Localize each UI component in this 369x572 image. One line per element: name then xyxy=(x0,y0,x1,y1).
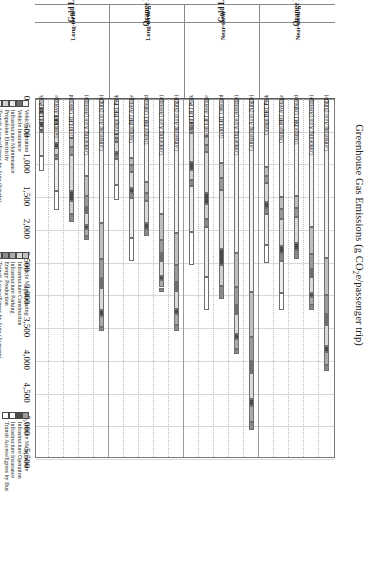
row-separator xyxy=(138,99,139,457)
bar-segment xyxy=(129,158,134,166)
legend-label: Infrastructure Operation xyxy=(16,422,22,479)
legend-swatch xyxy=(16,252,23,259)
category-label: Competing Auto (Average) xyxy=(160,95,166,156)
bar-segment xyxy=(189,133,194,162)
plot-area xyxy=(35,98,335,458)
bar-segment xyxy=(249,337,254,361)
bar-segment xyxy=(324,365,329,372)
bar-segment xyxy=(324,295,329,315)
bar-segment xyxy=(189,170,194,180)
legend-item: Infrastructure Construction xyxy=(16,252,22,358)
legend-swatch xyxy=(9,412,16,419)
bar-segment xyxy=(174,265,179,282)
bar-segment xyxy=(309,227,314,254)
bar-segment xyxy=(174,325,179,330)
legend-item: Vehicle Insurance xyxy=(16,100,22,202)
bar-segment xyxy=(99,316,104,327)
bar-segment xyxy=(294,250,299,259)
legend-label: Transit Access/Egress by Bus xyxy=(3,422,9,492)
bar-segment xyxy=(159,280,164,288)
gridline xyxy=(36,99,334,100)
bar-segment xyxy=(204,204,209,219)
bar-segment xyxy=(234,253,239,286)
legend-item: Vehicle Maintenance xyxy=(23,412,29,491)
group-separator xyxy=(108,99,109,457)
chart-legend: Vehicle OperationVehicle InsuranceInfras… xyxy=(1,100,29,560)
bar-segment xyxy=(144,201,149,223)
legend-column: Vehicle OperationVehicle InsuranceInfras… xyxy=(0,100,29,202)
legend-label: Infrastructure Maintenance xyxy=(9,110,15,174)
rotated-figure-wrapper: Greenhouse Gas Emissions (g CO2e/passeng… xyxy=(0,0,369,572)
bar-segment xyxy=(129,238,134,261)
gridline xyxy=(36,164,334,165)
legend-item: Transit Access/Egress by Auto (Single) xyxy=(0,100,2,202)
bar-segment xyxy=(39,156,44,171)
bar-segment xyxy=(204,227,209,277)
row-separator xyxy=(63,99,64,457)
bar-segment xyxy=(309,305,314,310)
bar-segment xyxy=(159,253,164,260)
bar-segment xyxy=(204,219,209,228)
category-label: Competing Auto (Average) xyxy=(235,95,241,156)
bar-segment xyxy=(159,261,164,276)
bar-segment xyxy=(279,219,284,245)
legend-swatch xyxy=(2,100,9,107)
category-label: Competing Auto (Single) xyxy=(175,95,181,152)
bar-segment xyxy=(324,352,329,365)
bar-segment xyxy=(249,406,254,422)
bar-segment xyxy=(264,214,269,245)
bar-segment xyxy=(249,422,254,430)
bar-segment xyxy=(159,240,164,254)
category-label: Competing Auto (Single) xyxy=(100,95,106,152)
bar-segment xyxy=(309,277,314,293)
legend-swatch xyxy=(2,252,9,259)
legend-label: Infrastructure Insurance xyxy=(9,422,15,478)
legend-item: Infrastructure Parking xyxy=(9,252,15,358)
bar-segment xyxy=(294,196,299,208)
row-separator xyxy=(273,99,274,457)
bar-segment xyxy=(69,147,74,154)
legend-swatch xyxy=(9,252,16,259)
bar-segment xyxy=(204,193,209,204)
bar-segment xyxy=(234,287,239,305)
legend-swatch xyxy=(0,100,2,107)
bar-segment xyxy=(39,132,44,156)
gridline xyxy=(36,459,334,460)
bar-segment xyxy=(294,208,299,218)
legend-label: Vehicle Maintenance xyxy=(23,422,29,472)
group-separator xyxy=(258,99,259,457)
bar-segment xyxy=(69,191,74,201)
legend-label: Propulsion Electricity xyxy=(3,110,9,162)
gridline xyxy=(36,394,334,395)
category-label: Gold LRT Average xyxy=(55,95,61,137)
gridline xyxy=(36,230,334,231)
bar-segment xyxy=(114,185,119,200)
bar-segment xyxy=(324,258,329,295)
row-separator xyxy=(198,99,199,457)
bar-segment xyxy=(69,138,74,147)
bar-segment xyxy=(174,291,179,309)
bar-segment xyxy=(99,288,104,310)
legend-label: Infrastructure Parking xyxy=(9,262,15,314)
bar-segment xyxy=(249,361,254,373)
bar-segment xyxy=(69,201,74,214)
bar-segment xyxy=(279,253,284,262)
bar-segment xyxy=(189,232,194,265)
legend-item: Infrastructure Maintenance xyxy=(9,100,15,202)
bar-segment xyxy=(279,209,284,219)
row-separator xyxy=(48,99,49,457)
bar-segment xyxy=(54,148,59,155)
row-separator xyxy=(153,99,154,457)
legend-swatch xyxy=(9,100,16,107)
legend-item: Energy Production xyxy=(2,252,8,358)
bar-segment xyxy=(144,229,149,237)
category-label: Gold LRT Peak xyxy=(190,95,196,130)
bar-segment xyxy=(159,288,164,293)
category-label: Gold LRT Onboard xyxy=(70,95,76,139)
bar-segment xyxy=(234,305,239,314)
bar-segment xyxy=(84,236,89,240)
bar-segment xyxy=(114,142,119,152)
bar-segment xyxy=(219,190,224,249)
bar-segment xyxy=(144,193,149,202)
horizon-label: Near-term xyxy=(294,6,301,46)
